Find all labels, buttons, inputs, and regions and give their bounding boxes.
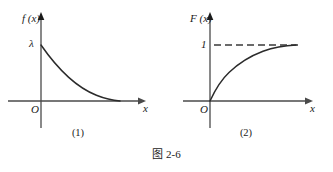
cdf-x-axis-label: x: [310, 103, 315, 114]
cdf-y-axis-label: F (x): [190, 13, 212, 24]
pdf-y-tick-lambda: λ: [29, 38, 34, 49]
pdf-origin-label: O: [31, 104, 39, 115]
chart-panel-cdf: F (x) 1 O x (2): [166, 0, 332, 150]
figure-caption: 图 2-6: [0, 148, 333, 161]
chart-panel-pdf: f (x) λ O x (1): [0, 0, 166, 150]
figure-container: f (x) λ O x (1) F (x) 1 O x (2) 图 2-6: [0, 0, 333, 172]
pdf-panel-caption: (1): [58, 128, 98, 139]
cdf-y-tick-one: 1: [201, 39, 207, 50]
cdf-origin-label: O: [200, 104, 208, 115]
pdf-x-axis-label: x: [143, 103, 148, 114]
pdf-curve: [41, 45, 120, 101]
cdf-panel-caption: (2): [226, 128, 266, 139]
pdf-y-axis-label: f (x): [22, 13, 40, 24]
cdf-curve: [210, 45, 296, 101]
